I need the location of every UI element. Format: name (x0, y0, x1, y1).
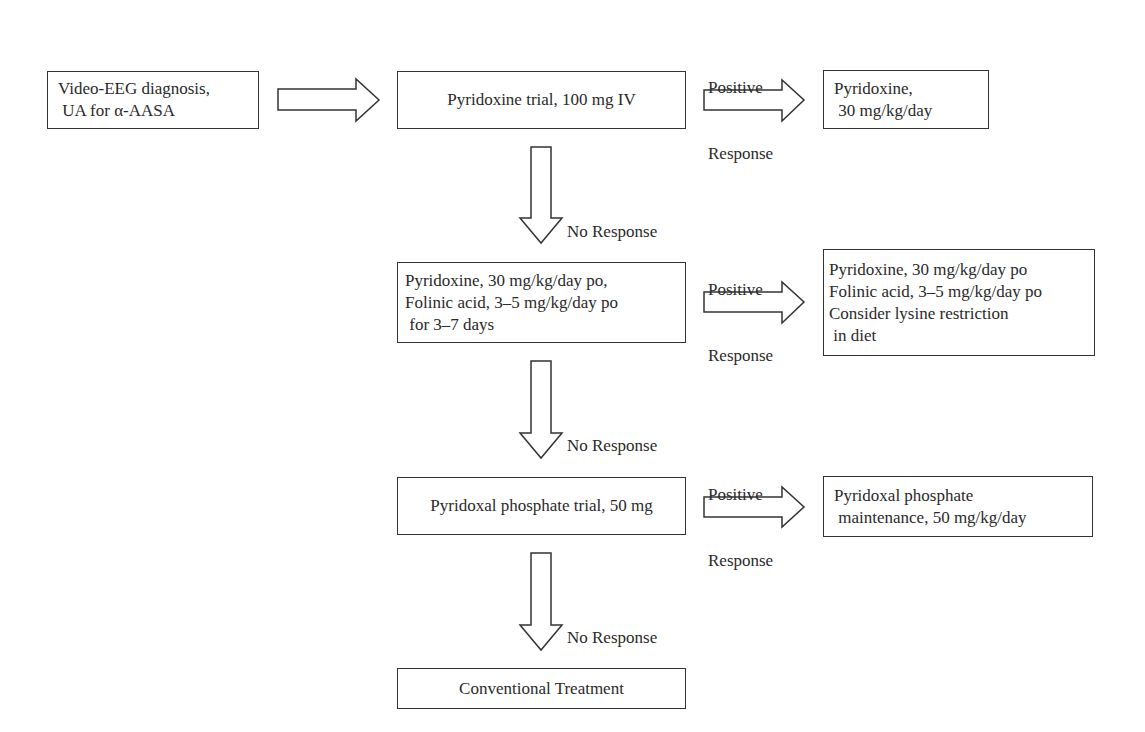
edge-label-text: Response (708, 345, 773, 367)
right-arrow-icon (278, 79, 379, 121)
node-text: for 3–7 days (405, 314, 675, 336)
node-text: Consider lysine restriction (829, 303, 1084, 325)
node-text: maintenance, 50 mg/kg/day (834, 507, 1082, 529)
node-text: Pyridoxal phosphate (834, 485, 1082, 507)
edge-label-no-response: No Response (567, 391, 657, 501)
edge-label-text: Response (708, 550, 773, 572)
node-text: Pyridoxine, 30 mg/kg/day po (829, 259, 1084, 281)
down-arrow-icon (520, 553, 562, 650)
node-video-eeg-diagnosis: Video-EEG diagnosis, UA for α-AASA (47, 71, 259, 129)
edge-label-text: Positive (708, 279, 773, 301)
node-text: Folinic acid, 3–5 mg/kg/day po (829, 281, 1084, 303)
edge-label-text: Positive (708, 77, 773, 99)
down-arrow-icon (520, 361, 562, 458)
edge-label-text: No Response (567, 627, 657, 649)
node-plp-maintenance: Pyridoxal phosphate maintenance, 50 mg/k… (823, 476, 1093, 537)
node-text: Pyridoxine trial, 100 mg IV (447, 89, 635, 111)
node-pyridoxine-maintenance: Pyridoxine, 30 mg/kg/day (823, 70, 989, 129)
node-text: in diet (829, 325, 1084, 347)
edge-label-positive-response: Positive Response (708, 33, 773, 209)
flowchart-canvas: Video-EEG diagnosis, UA for α-AASA Pyrid… (0, 0, 1145, 732)
edge-label-positive-response: Positive Response (708, 440, 773, 616)
edge-label-text: Response (708, 143, 773, 165)
edge-label-text: No Response (567, 221, 657, 243)
node-text: 30 mg/kg/day (834, 100, 978, 122)
node-pyridoxine-trial: Pyridoxine trial, 100 mg IV (397, 71, 686, 129)
edge-label-no-response: No Response (567, 177, 657, 287)
node-pyridoxine-folinic-maintenance: Pyridoxine, 30 mg/kg/day po Folinic acid… (823, 249, 1095, 356)
node-text: UA for α-AASA (58, 100, 248, 122)
edge-label-text: No Response (567, 435, 657, 457)
node-text: Video-EEG diagnosis, (58, 78, 248, 100)
edge-label-text: Positive (708, 484, 773, 506)
node-text: Folinic acid, 3–5 mg/kg/day po (405, 292, 675, 314)
node-text: Pyridoxine, (834, 78, 978, 100)
down-arrow-icon (520, 147, 562, 243)
edge-label-no-response: No Response (567, 583, 657, 693)
edge-label-positive-response: Positive Response (708, 235, 773, 411)
